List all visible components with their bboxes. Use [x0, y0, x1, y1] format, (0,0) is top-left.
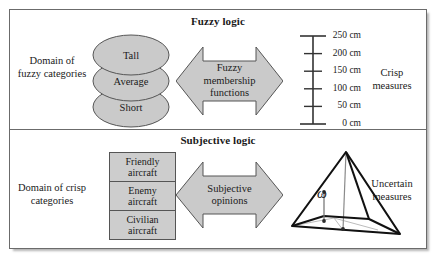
label-domain-of-fuzzy-categories: Domain of fuzzy categories: [17, 55, 87, 80]
crisp-box-line-2: aircraft: [128, 196, 157, 208]
crisp-category-boxes: Friendly aircraft Enemy aircraft Civilia…: [109, 152, 176, 240]
ellipse-tall-label: Tall: [92, 34, 170, 76]
panel-title-subjective-logic: Subjective logic: [10, 134, 426, 146]
arrow-label-fuzzy-membership-functions: Fuzzy membership functions: [176, 37, 283, 125]
panel-fuzzy-logic: Fuzzy logic Domain of fuzzy categories S…: [10, 10, 426, 130]
arrow-line-2: opinions: [211, 195, 247, 208]
crisp-box-line-2: aircraft: [128, 167, 157, 179]
crisp-measure-ruler: 250 cm 200 cm 150 cm 100 cm 50 cm 0 cm: [291, 32, 361, 128]
ruler-tick-50: 50 cm: [315, 100, 361, 110]
crisp-box-line-1: Friendly: [126, 156, 160, 168]
diagram-frame: Fuzzy logic Domain of fuzzy categories S…: [9, 9, 427, 249]
arrow-label-subjective-opinions: Subjective opinions: [176, 153, 283, 237]
arrow-line-1: Subjective: [207, 183, 251, 196]
crisp-box-friendly-aircraft: Friendly aircraft: [109, 152, 176, 182]
crisp-box-enemy-aircraft: Enemy aircraft: [109, 181, 176, 211]
label-crisp-measures: Crisp measures: [361, 67, 423, 92]
crisp-box-civilian-aircraft: Civilian aircraft: [109, 210, 176, 240]
bidirectional-arrow-fuzzy: Fuzzy membership functions: [176, 37, 283, 125]
ruler-tick-200: 200 cm: [315, 48, 361, 58]
arrow-line-2: membership: [204, 75, 256, 88]
ellipse-tall: Tall: [92, 34, 170, 76]
fuzzy-category-ellipses: Short Average Tall: [92, 34, 170, 128]
panel-title-fuzzy-logic: Fuzzy logic: [10, 15, 426, 27]
crisp-box-line-2: aircraft: [128, 225, 157, 237]
ruler-tick-250: 250 cm: [315, 30, 361, 40]
arrow-line-3: functions: [210, 87, 249, 100]
crisp-box-line-1: Civilian: [126, 214, 158, 226]
crisp-box-line-1: Enemy: [128, 185, 156, 197]
ruler-tick-150: 150 cm: [315, 65, 361, 75]
label-uncertain-measures: Uncertain measures: [359, 178, 425, 203]
ruler-tick-100: 100 cm: [315, 83, 361, 93]
label-domain-of-crisp-categories: Domain of crisp categories: [17, 182, 87, 207]
omega-opinion-label: ω: [317, 186, 327, 202]
panel-subjective-logic: Subjective logic Domain of crisp categor…: [10, 130, 426, 248]
arrow-line-1: Fuzzy: [217, 62, 243, 75]
ruler-tick-0: 0 cm: [315, 118, 361, 128]
bidirectional-arrow-subjective: Subjective opinions: [176, 153, 283, 237]
